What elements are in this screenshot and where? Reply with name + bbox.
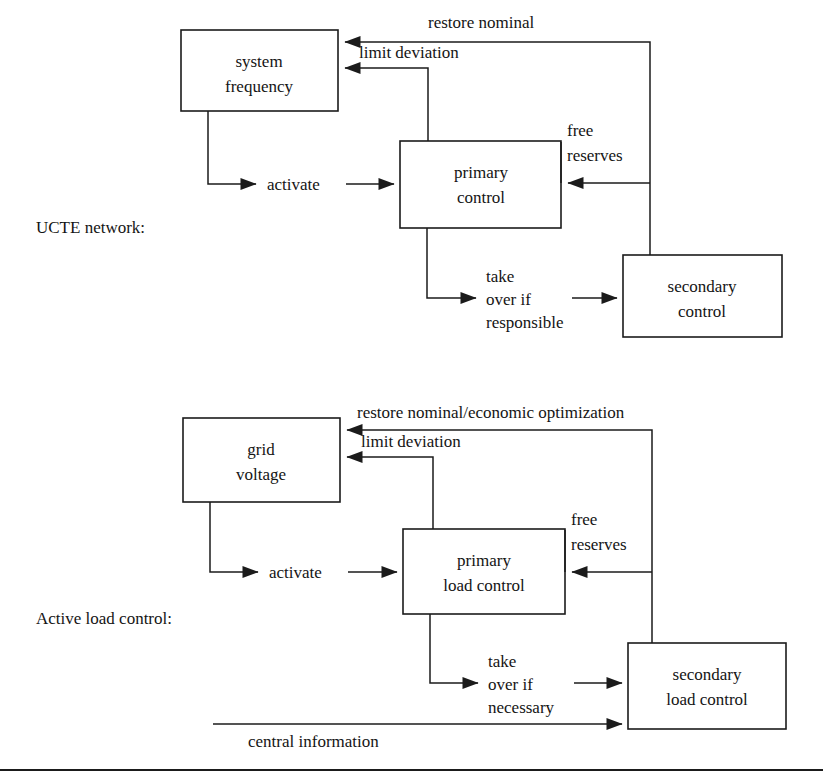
label-responsible: responsible xyxy=(486,313,563,332)
box-secondary-load-control-line2: load control xyxy=(666,690,748,709)
edge-activate-from-voltage xyxy=(210,502,258,572)
edge-take-over-from-primary-load xyxy=(430,614,478,683)
label-reserves: reserves xyxy=(567,146,623,165)
box-system-frequency-line1: system xyxy=(235,52,282,71)
label-activate: activate xyxy=(267,175,320,194)
label-limit-deviation-bottom: limit deviation xyxy=(361,432,461,451)
box-primary-load-control-line2: load control xyxy=(443,576,525,595)
box-primary-load-control xyxy=(403,529,565,614)
box-grid-voltage-line1: grid xyxy=(247,440,275,459)
box-grid-voltage-line2: voltage xyxy=(236,465,286,484)
edge-take-over-from-primary xyxy=(427,228,476,298)
box-system-frequency-line2: frequency xyxy=(225,77,293,96)
box-secondary-load-control xyxy=(628,643,786,729)
box-secondary-control-line1: secondary xyxy=(668,277,737,296)
label-over-if-bottom: over if xyxy=(488,675,533,694)
label-central-information: central information xyxy=(248,732,379,751)
label-restore-nominal-economic: restore nominal/economic optimization xyxy=(357,403,625,422)
box-secondary-control-line2: control xyxy=(678,302,726,321)
box-secondary-load-control-line1: secondary xyxy=(673,665,742,684)
label-restore-nominal: restore nominal xyxy=(428,13,534,32)
section-label-ucte-network: UCTE network: xyxy=(36,218,145,237)
box-grid-voltage xyxy=(183,418,340,502)
diagram-canvas: system frequency primary control seconda… xyxy=(0,0,823,779)
label-necessary: necessary xyxy=(488,698,555,717)
edge-limit-deviation-bottom xyxy=(347,457,433,529)
label-limit-deviation: limit deviation xyxy=(359,43,459,62)
label-over-if: over if xyxy=(486,290,531,309)
label-activate-bottom: activate xyxy=(269,563,322,582)
box-primary-load-control-line1: primary xyxy=(457,551,511,570)
box-primary-control xyxy=(400,141,561,228)
box-secondary-control xyxy=(623,255,782,337)
edge-limit-deviation xyxy=(345,68,428,141)
label-free: free xyxy=(567,121,593,140)
section-label-active-load-control: Active load control: xyxy=(36,609,172,628)
label-take: take xyxy=(486,267,514,286)
box-primary-control-line1: primary xyxy=(454,163,508,182)
block-diagram-figure: system frequency primary control seconda… xyxy=(0,0,823,779)
label-reserves-bottom: reserves xyxy=(571,535,627,554)
label-take-bottom: take xyxy=(488,652,516,671)
edge-activate-from-frequency xyxy=(208,111,256,184)
box-primary-control-line2: control xyxy=(457,188,505,207)
label-free-bottom: free xyxy=(571,510,597,529)
